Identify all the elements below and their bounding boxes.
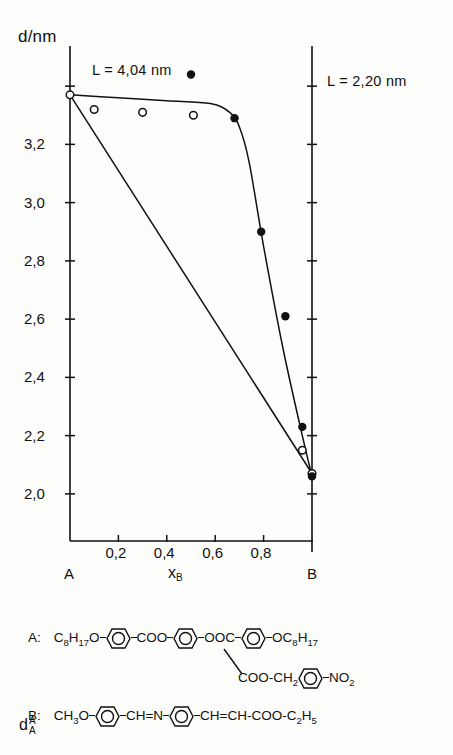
- x-end-label-b: B: [307, 566, 317, 581]
- chem-group-no2: NO2: [329, 670, 355, 685]
- plot-axes: [70, 46, 313, 552]
- data-point-open: [139, 109, 147, 117]
- series-curves: [70, 95, 312, 477]
- chem-group-coo: COO: [137, 630, 168, 645]
- y-tick-label: 2,0: [24, 486, 45, 501]
- x-end-label-a: A: [64, 566, 74, 581]
- data-point-open: [66, 91, 74, 99]
- data-point-filled: [257, 228, 265, 236]
- compound-a-chain: C8H17O COO OOC OC8H17: [54, 629, 318, 645]
- y-axis-label: d/nm: [18, 28, 57, 45]
- compound-a-label: A:: [28, 630, 41, 645]
- benzene-ring-icon: [169, 706, 194, 727]
- annotation-left-phase: L = 4,04 nm: [92, 63, 172, 78]
- y-tick-label: 2,2: [24, 428, 45, 443]
- benzene-ring-icon: [298, 668, 323, 689]
- x-axis-label: xB: [168, 565, 183, 583]
- data-point-filled: [308, 472, 316, 480]
- y-tick-label: 2,4: [24, 369, 45, 384]
- benzene-ring-icon: [241, 628, 266, 649]
- compound-b-row: B: CH3O CH=N CH=CH-COO-C2H5: [28, 706, 317, 727]
- x-axis-label-main: x: [168, 564, 176, 581]
- data-point-filled: [187, 70, 195, 78]
- chem-group-coo-ch2: COO-CH2: [238, 670, 298, 685]
- y-tick-label: 2,6: [24, 311, 45, 326]
- chem-group-ooc: OOC: [204, 630, 235, 645]
- curve-lower-line: [70, 95, 312, 474]
- data-point-filled: [298, 423, 306, 431]
- annotation-right-phase: L = 2,20 nm: [327, 74, 407, 89]
- compound-a-branch: COO-CH2 NO2: [238, 668, 355, 689]
- figure-panel: d/nm L = 4,04 nm L = 2,20 nm d A A d A B…: [0, 0, 453, 755]
- benzene-ring-icon: [173, 628, 198, 649]
- y-tick-label: 2,8: [24, 253, 45, 268]
- benzene-ring-icon: [106, 628, 131, 649]
- series-points: [66, 70, 316, 480]
- chem-group-oc8h17: OC8H17: [272, 630, 318, 645]
- x-tick-label: 0,8: [251, 545, 272, 560]
- data-point-filled: [281, 312, 289, 320]
- x-tick-label: 0,4: [154, 545, 175, 560]
- y-tick-label: 3,2: [24, 136, 45, 151]
- chem-group-ch-ch-coo-c2h5: CH=CH-COO-C2H5: [200, 708, 317, 723]
- data-point-open: [299, 446, 307, 454]
- data-point-filled: [230, 114, 238, 122]
- dAA-base: d: [19, 716, 28, 733]
- compound-b-label: B:: [28, 708, 41, 723]
- x-axis-label-sub: B: [176, 572, 183, 583]
- axis-ticks: [65, 86, 317, 542]
- plot-svg: [0, 0, 453, 600]
- x-tick-label: 0,6: [202, 545, 223, 560]
- chem-group-c8h17o: C8H17O: [54, 630, 100, 645]
- data-point-open: [90, 106, 98, 114]
- y-tick-label: 3,0: [24, 195, 45, 210]
- benzene-ring-icon: [95, 706, 120, 727]
- chem-group-ch-n: CH=N: [126, 708, 163, 723]
- compound-b-chain: CH3O CH=N CH=CH-COO-C2H5: [54, 707, 317, 723]
- x-tick-label: 0,2: [105, 545, 126, 560]
- compound-a-row: A: C8H17O COO OOC OC8H17: [28, 628, 318, 649]
- data-point-open: [190, 111, 198, 119]
- chem-group-ch3o: CH3O: [54, 708, 89, 723]
